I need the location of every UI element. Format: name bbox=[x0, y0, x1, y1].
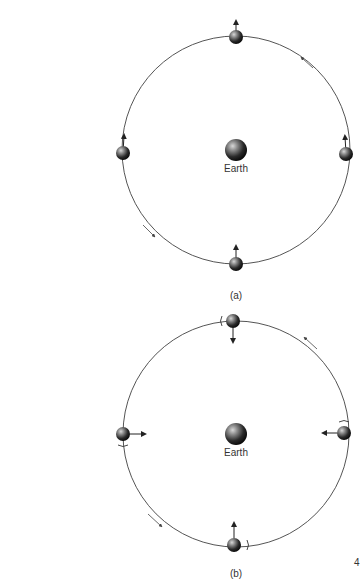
moon-bottom-b bbox=[227, 524, 249, 552]
rotation-arc-icon bbox=[339, 421, 349, 423]
moon-top-a bbox=[229, 22, 243, 44]
moon-right-b bbox=[324, 421, 351, 441]
orbit-diagrams bbox=[0, 0, 362, 579]
orbit-direction-arrow-icon bbox=[148, 514, 161, 526]
orbit-direction-arrow-icon bbox=[305, 338, 317, 349]
earth-label-b: Earth bbox=[216, 447, 256, 458]
moon-left-a bbox=[116, 136, 130, 160]
page-number: 4 bbox=[354, 557, 362, 568]
earth-label-a: Earth bbox=[216, 163, 256, 174]
diagram-b bbox=[116, 314, 351, 552]
moon-bottom-a bbox=[229, 247, 243, 271]
earth-a bbox=[225, 139, 247, 161]
caption-a: (a) bbox=[216, 290, 256, 301]
moon-top-b bbox=[221, 314, 241, 341]
orbit-direction-arrow-icon bbox=[143, 225, 154, 236]
rotation-arc-icon bbox=[221, 316, 223, 326]
moon-left-b bbox=[116, 427, 144, 447]
rotation-arc-icon bbox=[247, 540, 249, 550]
moon-right-a bbox=[339, 137, 353, 161]
diagram-a bbox=[116, 22, 353, 271]
orbit-direction-arrow-icon bbox=[302, 58, 313, 68]
rotation-arc-icon bbox=[118, 445, 128, 447]
earth-b bbox=[225, 423, 247, 445]
caption-b: (b) bbox=[216, 568, 256, 579]
